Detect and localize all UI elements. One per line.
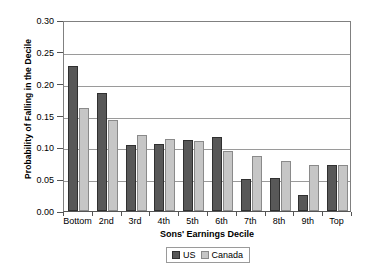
bar-group bbox=[64, 22, 93, 211]
x-tick-label-top: Top bbox=[322, 216, 351, 226]
bar-canada-8th bbox=[281, 161, 291, 211]
bar-us-6th bbox=[212, 137, 222, 211]
x-axis-title: Sons' Earnings Decile bbox=[63, 229, 351, 239]
bar-group bbox=[294, 22, 323, 211]
x-tick-mark bbox=[351, 212, 352, 216]
x-tick-label-bottom: Bottom bbox=[63, 216, 92, 226]
y-tick-label: 0.25 bbox=[36, 47, 54, 59]
legend-item-canada: Canada bbox=[201, 250, 244, 260]
y-tick-label: 0.30 bbox=[36, 15, 54, 27]
bar-group bbox=[266, 22, 295, 211]
y-tick: 0.15 bbox=[0, 111, 63, 123]
y-tick-label: 0.15 bbox=[36, 111, 54, 123]
bar-us-9th bbox=[298, 195, 308, 211]
bar-canada-bottom bbox=[79, 108, 89, 211]
legend-label-canada: Canada bbox=[212, 250, 244, 260]
x-tick-label-7th: 7th bbox=[236, 216, 265, 226]
x-tick-label-9th: 9th bbox=[293, 216, 322, 226]
x-tick-label-2nd: 2nd bbox=[92, 216, 121, 226]
bars-layer bbox=[64, 22, 350, 211]
bar-us-3rd bbox=[126, 145, 136, 211]
y-tick-label: 0.00 bbox=[36, 206, 54, 218]
bar-group bbox=[122, 22, 151, 211]
bar-group bbox=[237, 22, 266, 211]
bar-us-8th bbox=[270, 178, 280, 211]
legend-swatch-canada bbox=[201, 251, 209, 259]
y-tick-label: 0.20 bbox=[36, 79, 54, 91]
bar-group bbox=[150, 22, 179, 211]
bar-chart: Probability of Falling in the Decile 0.3… bbox=[0, 0, 367, 276]
y-tick: 0.20 bbox=[0, 79, 63, 91]
bar-canada-6th bbox=[223, 151, 233, 211]
x-tick-label-6th: 6th bbox=[207, 216, 236, 226]
legend-swatch-us bbox=[172, 251, 180, 259]
bar-canada-5th bbox=[194, 141, 204, 211]
bar-canada-4th bbox=[165, 139, 175, 211]
bar-us-5th bbox=[183, 140, 193, 211]
y-tick-label: 0.05 bbox=[36, 174, 54, 186]
chart-legend: USCanada bbox=[166, 247, 250, 263]
x-tick-label-8th: 8th bbox=[265, 216, 294, 226]
y-tick: 0.10 bbox=[0, 142, 63, 154]
bar-us-bottom bbox=[68, 66, 78, 211]
bar-canada-9th bbox=[309, 165, 319, 211]
legend-item-us: US bbox=[172, 250, 196, 260]
bar-us-2nd bbox=[97, 93, 107, 211]
y-axis-ticks: 0.300.250.200.150.100.050.00 bbox=[0, 0, 63, 276]
bar-group bbox=[323, 22, 352, 211]
legend-label-us: US bbox=[183, 250, 196, 260]
bar-canada-2nd bbox=[108, 120, 118, 211]
bar-us-7th bbox=[241, 179, 251, 211]
bar-us-top bbox=[327, 165, 337, 211]
bar-canada-top bbox=[338, 165, 348, 211]
y-tick: 0.30 bbox=[0, 15, 63, 27]
bar-canada-3rd bbox=[137, 135, 147, 211]
bar-us-4th bbox=[154, 144, 164, 211]
x-tick-label-4th: 4th bbox=[149, 216, 178, 226]
bar-group bbox=[93, 22, 122, 211]
x-tick-label-3rd: 3rd bbox=[121, 216, 150, 226]
bar-group bbox=[179, 22, 208, 211]
y-tick: 0.25 bbox=[0, 47, 63, 59]
bar-group bbox=[208, 22, 237, 211]
y-tick: 0.05 bbox=[0, 174, 63, 186]
bar-canada-7th bbox=[252, 156, 262, 211]
x-tick-label-5th: 5th bbox=[178, 216, 207, 226]
y-tick: 0.00 bbox=[0, 206, 63, 218]
plot-area bbox=[63, 21, 351, 212]
y-tick-label: 0.10 bbox=[36, 142, 54, 154]
